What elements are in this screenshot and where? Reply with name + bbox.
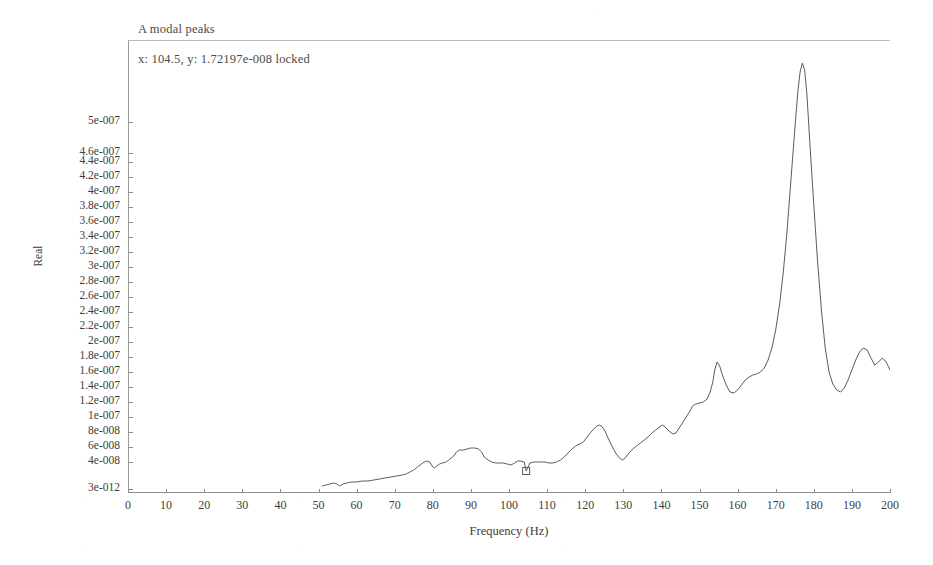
x-tick-label: 190 <box>832 498 872 513</box>
y-tick-label: 2.6e-007 <box>0 289 120 301</box>
page-title: A modal peaks <box>138 22 215 37</box>
x-tick-label: 100 <box>489 498 529 513</box>
x-tick-label: 0 <box>108 498 148 513</box>
y-tick-label: 2.4e-007 <box>0 304 120 316</box>
x-axis-title: Frequency (Hz) <box>128 524 890 539</box>
y-tick-label: 3.6e-007 <box>0 214 120 226</box>
x-tick-label: 130 <box>603 498 643 513</box>
x-tick-label: 60 <box>337 498 377 513</box>
y-tick-label: 1.8e-007 <box>0 349 120 361</box>
data-series-plot <box>128 40 890 493</box>
y-tick-label: 3.4e-007 <box>0 229 120 241</box>
y-tick-label: 5e-007 <box>0 114 120 126</box>
y-tick-label: 3e-007 <box>0 259 120 271</box>
x-tick-label: 120 <box>565 498 605 513</box>
x-tick-label: 90 <box>451 498 491 513</box>
x-tick-label: 170 <box>756 498 796 513</box>
y-tick-label: 8e-008 <box>0 424 120 436</box>
y-tick-label: 3e-012 <box>0 481 120 493</box>
y-tick-label: 6e-008 <box>0 439 120 451</box>
y-tick-label: 1e-007 <box>0 409 120 421</box>
x-tick-label: 150 <box>680 498 720 513</box>
y-tick-label: 4.6e-007 <box>0 145 120 157</box>
y-tick-label: 2e-007 <box>0 334 120 346</box>
y-tick-label: 2.8e-007 <box>0 274 120 286</box>
x-tick-label: 40 <box>260 498 300 513</box>
series-line-real <box>322 63 890 486</box>
x-tick-label: 50 <box>299 498 339 513</box>
y-tick-label: 4.2e-007 <box>0 169 120 181</box>
x-tick-label: 180 <box>794 498 834 513</box>
y-tick-label: 3.2e-007 <box>0 244 120 256</box>
x-tick-label: 10 <box>146 498 186 513</box>
y-tick-label: 3.8e-007 <box>0 199 120 211</box>
y-tick-label: 4e-008 <box>0 454 120 466</box>
y-tick-label: 4e-007 <box>0 184 120 196</box>
figure-canvas: A modal peaks x: 104.5, y: 1.72197e-008 … <box>0 0 933 565</box>
x-tick-label: 30 <box>222 498 262 513</box>
y-tick-label: 2.2e-007 <box>0 319 120 331</box>
x-tick-mark <box>890 489 891 493</box>
x-tick-label: 160 <box>718 498 758 513</box>
x-tick-label: 70 <box>375 498 415 513</box>
x-tick-label: 140 <box>641 498 681 513</box>
x-tick-label: 110 <box>527 498 567 513</box>
y-tick-label: 1.2e-007 <box>0 394 120 406</box>
x-tick-label: 200 <box>870 498 910 513</box>
x-tick-label: 80 <box>413 498 453 513</box>
y-tick-label: 1.4e-007 <box>0 379 120 391</box>
x-tick-label: 20 <box>184 498 224 513</box>
y-tick-label: 1.6e-007 <box>0 364 120 376</box>
